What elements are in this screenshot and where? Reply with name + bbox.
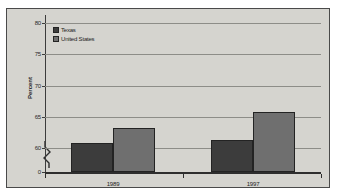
chart-page: Percent 80757065600 19891997 Texas Unite… [0, 0, 338, 195]
legend-label-texas: Texas [61, 27, 76, 34]
y-tick-label: 0 [38, 169, 41, 175]
y-tick-mark [42, 117, 45, 118]
x-tick-mark [321, 174, 322, 178]
gridline [45, 54, 321, 55]
gridline [45, 86, 321, 87]
y-tick-mark [42, 23, 45, 24]
y-tick-mark [42, 148, 45, 149]
x-tick-label: 1997 [247, 181, 260, 187]
x-tick-mark [45, 174, 46, 178]
x-tick-label: 1989 [107, 181, 120, 187]
y-tick-mark [42, 54, 45, 55]
legend-item-texas[interactable]: Texas [53, 26, 94, 34]
y-tick-label: 75 [35, 51, 41, 57]
y-tick-mark [42, 172, 45, 173]
y-axis-title: Percent [27, 77, 33, 99]
y-tick-mark [42, 86, 45, 87]
bar-texas-1997 [211, 140, 253, 172]
y-axis-line [45, 15, 46, 174]
legend-label-united-states: United States [61, 36, 94, 43]
gridline [45, 23, 321, 24]
y-tick-label: 60 [35, 145, 41, 151]
legend-swatch-united-states [53, 36, 59, 42]
y-tick-label: 80 [35, 20, 41, 26]
legend-swatch-texas [53, 27, 59, 33]
x-tick-mark [183, 174, 184, 178]
bar-texas-1989 [71, 143, 113, 172]
figure-frame: Percent 80757065600 19891997 Texas Unite… [6, 8, 330, 188]
bar-united-states-1997 [253, 112, 295, 172]
legend-item-united-states[interactable]: United States [53, 35, 94, 43]
y-tick-label: 70 [35, 83, 41, 89]
bar-united-states-1989 [113, 128, 155, 172]
chart-legend: Texas United States [53, 26, 94, 43]
y-tick-label: 65 [35, 114, 41, 120]
